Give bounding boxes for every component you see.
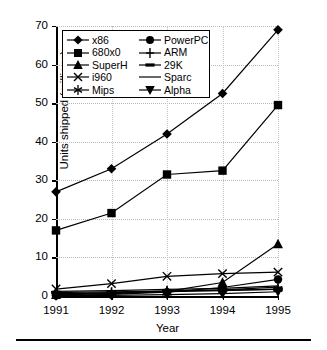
x-axis-title: Year bbox=[56, 322, 279, 334]
y-tick-label: 0 bbox=[26, 290, 48, 302]
data-point bbox=[107, 164, 117, 174]
legend-entry-superh[interactable]: SuperH bbox=[66, 59, 138, 71]
y-tick-mark bbox=[52, 142, 56, 143]
legend-entry-alpha[interactable]: Alpha bbox=[138, 84, 210, 96]
data-point bbox=[107, 209, 115, 217]
data-point bbox=[274, 101, 282, 109]
legend-entry-680x0[interactable]: 680x0 bbox=[66, 47, 138, 59]
triangle-down-marker-icon bbox=[138, 84, 162, 96]
y-tick-label: 30 bbox=[26, 174, 48, 186]
y-tick-label: 20 bbox=[26, 213, 48, 225]
y-tick-mark bbox=[52, 219, 56, 220]
y-tick-mark bbox=[52, 180, 56, 181]
legend-entry-mips[interactable]: Mips bbox=[66, 84, 138, 96]
chart-figure: Units shipped (millions) x86PowerPC680x0… bbox=[0, 0, 327, 350]
x-tick-label: 1995 bbox=[255, 305, 301, 317]
legend-label: 29K bbox=[164, 60, 183, 71]
data-point bbox=[51, 187, 61, 197]
circle-marker-icon bbox=[138, 34, 162, 46]
dash-marker-icon bbox=[138, 59, 162, 71]
y-tick-label: 50 bbox=[26, 97, 48, 109]
y-tick-label: 40 bbox=[26, 136, 48, 148]
x-tick-mark bbox=[112, 296, 113, 300]
asterisk-marker-icon bbox=[66, 84, 90, 96]
y-tick-label: 70 bbox=[26, 20, 48, 32]
x-tick-label: 1992 bbox=[89, 305, 135, 317]
y-tick-mark bbox=[52, 103, 56, 104]
legend-entry-x86[interactable]: x86 bbox=[66, 34, 138, 46]
legend-label: 680x0 bbox=[92, 47, 121, 58]
x-tick-mark bbox=[167, 296, 168, 300]
legend-label: ARM bbox=[164, 47, 187, 58]
x-tick-label: 1991 bbox=[33, 305, 79, 317]
y-tick-label: 10 bbox=[26, 251, 48, 263]
legend-entry-29k[interactable]: 29K bbox=[138, 59, 210, 71]
legend-entry-powerpc[interactable]: PowerPC bbox=[138, 34, 210, 46]
legend-label: PowerPC bbox=[164, 35, 208, 46]
legend-entry-arm[interactable]: ARM bbox=[138, 47, 210, 59]
data-point bbox=[52, 226, 60, 234]
legend-label: Sparc bbox=[164, 72, 191, 83]
x-tick-mark bbox=[56, 296, 57, 300]
x-tick-label: 1994 bbox=[200, 305, 246, 317]
chart-legend: x86PowerPC680x0ARMSuperH29Ki960SparcMips… bbox=[62, 30, 210, 98]
data-point bbox=[218, 166, 226, 174]
legend-entry-i960[interactable]: i960 bbox=[66, 71, 138, 83]
x-marker-icon bbox=[66, 71, 90, 83]
none-marker-icon bbox=[138, 71, 162, 83]
diamond-marker-icon bbox=[66, 34, 90, 46]
legend-label: SuperH bbox=[92, 60, 128, 71]
x-tick-mark bbox=[278, 296, 279, 300]
legend-label: x86 bbox=[92, 35, 109, 46]
data-point bbox=[162, 129, 172, 139]
legend-label: Mips bbox=[92, 85, 114, 96]
data-point bbox=[273, 239, 283, 248]
series-680x0 bbox=[52, 101, 282, 235]
gridline-vertical bbox=[278, 26, 280, 296]
data-point bbox=[163, 170, 171, 178]
square-marker-icon bbox=[66, 47, 90, 59]
y-tick-mark bbox=[52, 257, 56, 258]
legend-entry-sparc[interactable]: Sparc bbox=[138, 71, 210, 83]
legend-label: Alpha bbox=[164, 85, 191, 96]
bottom-rule bbox=[16, 339, 311, 341]
triangle-up-marker-icon bbox=[66, 59, 90, 71]
legend-label: i960 bbox=[92, 72, 112, 83]
y-tick-label: 60 bbox=[26, 59, 48, 71]
plus-marker-icon bbox=[138, 47, 162, 59]
x-tick-label: 1993 bbox=[144, 305, 190, 317]
y-tick-mark bbox=[52, 26, 56, 27]
y-tick-mark bbox=[52, 65, 56, 66]
x-tick-mark bbox=[223, 296, 224, 300]
